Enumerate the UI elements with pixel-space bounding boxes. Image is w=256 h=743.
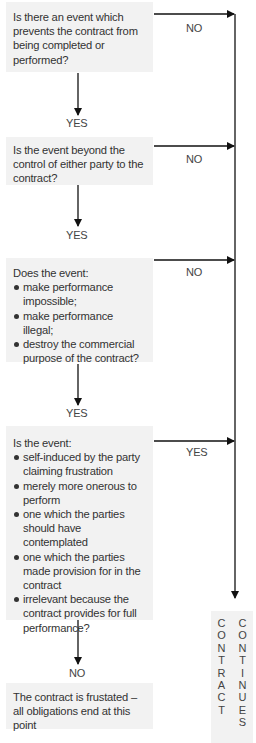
label-q2-yes: YES: [66, 229, 87, 241]
label-q4-no: NO: [69, 667, 85, 679]
letter: T: [218, 654, 225, 666]
list-item: self-induced by the party claiming frust…: [13, 450, 146, 478]
list-item: one which the parties made provision for…: [13, 550, 146, 593]
label-q3-no: NO: [186, 266, 202, 278]
letter: N: [239, 679, 247, 691]
label-q4-yes: YES: [186, 446, 207, 458]
letter: E: [239, 704, 246, 716]
letter: A: [218, 679, 225, 691]
label-q3-yes: YES: [66, 407, 87, 419]
question-1-text: Is there an event which prevents the con…: [13, 11, 138, 66]
question-2-text: Is the event beyond the control of eithe…: [13, 144, 143, 184]
label-q2-no: NO: [186, 153, 202, 165]
letter: O: [217, 629, 226, 641]
label-q1-no: NO: [186, 22, 202, 34]
letter: C: [218, 691, 226, 703]
question-3-intro: Does the event:: [13, 266, 146, 280]
letter: O: [238, 629, 247, 641]
outcome-contract-continues-box: C O N T R A C T C O N T I N U E S: [211, 611, 253, 743]
list-item: one which the parties should have contem…: [13, 507, 146, 550]
outcome-frustrated-text: The contract is frustated – all obligati…: [13, 691, 137, 731]
letter: R: [218, 667, 226, 679]
question-3-list: make performance impossible; make perfor…: [13, 280, 146, 365]
letter: S: [239, 716, 246, 728]
list-item: destroy the commercial purpose of the co…: [13, 337, 146, 365]
outcome-frustrated-box: The contract is frustated – all obligati…: [6, 683, 153, 729]
word-continues: C O N T I N U E S: [238, 617, 247, 743]
letter: N: [218, 642, 226, 654]
letter: N: [239, 642, 247, 654]
letter: C: [239, 617, 247, 629]
letter: T: [218, 704, 225, 716]
list-item: make performance illegal;: [13, 309, 146, 337]
question-box-2: Is the event beyond the control of eithe…: [6, 137, 153, 185]
word-contract: C O N T R A C T: [217, 617, 226, 743]
letter: U: [239, 691, 247, 703]
list-item: make performance impossible;: [13, 280, 146, 308]
question-box-1: Is there an event which prevents the con…: [6, 2, 153, 72]
letter: T: [239, 654, 246, 666]
question-box-4: Is the event: self-induced by the party …: [6, 426, 153, 620]
question-4-intro: Is the event:: [13, 436, 146, 450]
letter: C: [218, 617, 226, 629]
letter: I: [241, 667, 244, 679]
label-q1-yes: YES: [66, 117, 87, 129]
question-box-3: Does the event: make performance impossi…: [6, 258, 153, 362]
question-4-list: self-induced by the party claiming frust…: [13, 450, 146, 635]
list-item: merely more onerous to perform: [13, 479, 146, 507]
list-item: irrelevant because the contract provides…: [13, 592, 146, 635]
